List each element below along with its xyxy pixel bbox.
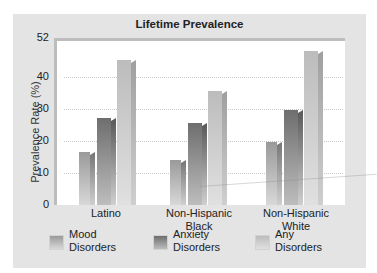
bar-any-disorders xyxy=(208,91,227,205)
chart-panel: Lifetime Prevalence Prevalence Rate (%) … xyxy=(13,14,366,268)
bar-mood-disorders xyxy=(266,142,282,205)
x-tick-label: Latino xyxy=(61,207,151,220)
legend-label: MoodDisorders xyxy=(69,228,139,254)
chart-title: Lifetime Prevalence xyxy=(13,18,366,30)
y-tick-label: 10 xyxy=(13,166,49,178)
legend-label: AnyDisorders xyxy=(275,228,345,254)
legend-swatch xyxy=(255,235,270,250)
legend-swatch xyxy=(153,235,168,250)
plot-area xyxy=(54,38,345,205)
legend-swatch xyxy=(49,235,64,250)
bar-any-disorders xyxy=(117,60,136,205)
y-tick-label: 30 xyxy=(13,102,49,114)
bar-anxiety-disorders xyxy=(188,123,207,205)
y-tick-label: 40 xyxy=(13,70,49,82)
gridline xyxy=(64,77,343,78)
bar-anxiety-disorders xyxy=(284,110,303,205)
y-tick-label: 52 xyxy=(13,31,49,43)
y-tick-label: 0 xyxy=(13,198,49,210)
bar-any-disorders xyxy=(304,51,323,205)
bar-mood-disorders xyxy=(79,152,95,205)
bar-anxiety-disorders xyxy=(97,118,116,205)
y-tick-label: 20 xyxy=(13,134,49,146)
legend-label: AnxietyDisorders xyxy=(173,228,243,254)
bar-mood-disorders xyxy=(170,160,186,205)
